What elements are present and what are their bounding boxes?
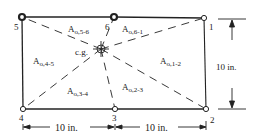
centroid-marker-icon — [93, 41, 109, 57]
node-label-6: 6 — [105, 22, 110, 32]
area-decomposition-diagram: c.g. 5 6 1 2 3 4 Ao,5-6 Ao,6-1 Ao,1-2 Ao… — [0, 0, 255, 140]
area-label-3-4: Ao,3-4 — [67, 86, 89, 98]
node-label-2: 2 — [210, 115, 215, 125]
node-4 — [20, 106, 25, 111]
area-label-5-6: Ao,5-6 — [68, 24, 90, 36]
area-label-2-3: Ao,2-3 — [122, 82, 144, 94]
centroid-label: c.g. — [75, 47, 88, 57]
area-label-4-5: Ao,4-5 — [33, 56, 55, 68]
area-label-6-1: Ao,6-1 — [122, 24, 144, 36]
node-label-4: 4 — [19, 113, 24, 123]
node-label-1: 1 — [209, 22, 214, 32]
node-5 — [19, 14, 25, 20]
right-width-label: 10 in. — [145, 122, 168, 133]
node-label-5: 5 — [14, 22, 19, 32]
node-2 — [203, 106, 208, 111]
node-label-3: 3 — [112, 113, 117, 123]
node-1 — [201, 15, 206, 20]
height-dimension-label: 10 in. — [216, 62, 237, 72]
area-label-1-2: Ao,1-2 — [160, 56, 182, 68]
node-6 — [111, 14, 117, 20]
node-3 — [112, 106, 117, 111]
left-width-label: 10 in. — [55, 122, 78, 133]
